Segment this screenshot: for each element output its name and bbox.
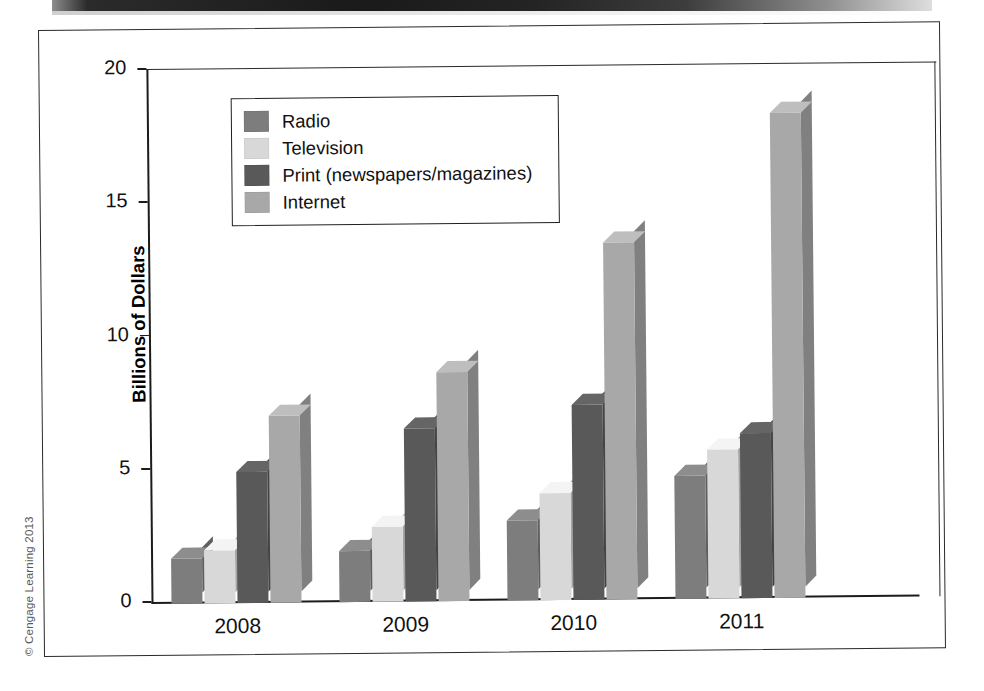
bar	[707, 449, 739, 599]
y-tick-label: 10	[69, 323, 129, 347]
bar-front-face	[603, 242, 637, 599]
bar-group: 2010	[502, 66, 639, 600]
chart-figure: Billions of Dollars 05101520 RadioTelevi…	[38, 21, 944, 655]
x-axis-category-label: 2008	[172, 613, 304, 638]
bar	[372, 527, 404, 602]
bar-side-face	[467, 350, 480, 590]
x-axis-category-label: 2011	[676, 609, 808, 634]
bar	[507, 520, 539, 600]
bar-group: 2008	[166, 70, 303, 604]
x-axis-category-label: 2009	[340, 612, 472, 637]
bar-front-face	[372, 527, 404, 602]
bar-front-face	[740, 433, 773, 599]
bar-front-face	[171, 558, 202, 604]
bar	[436, 372, 469, 601]
bar	[572, 405, 605, 600]
bar	[269, 416, 302, 603]
y-tick-mark	[140, 335, 149, 337]
x-axis-category-label: 2010	[508, 610, 640, 635]
y-tick-label: 15	[68, 189, 128, 213]
bar-front-face	[770, 113, 806, 598]
bar-front-face	[539, 493, 571, 600]
scan-edge-artifact-fade	[52, 11, 932, 15]
bar	[539, 493, 571, 600]
y-tick-mark	[137, 68, 146, 70]
y-tick-mark	[139, 201, 148, 203]
y-axis-title: Billions of Dollars	[127, 245, 151, 402]
bar-front-face	[339, 551, 370, 602]
y-tick-label: 0	[71, 589, 131, 613]
bar-side-face	[300, 394, 313, 592]
bar-front-face	[572, 405, 605, 600]
bar-front-face	[236, 472, 268, 603]
plot-area: Billions of Dollars 05101520 RadioTelevi…	[146, 61, 941, 604]
bar	[603, 242, 637, 599]
bar-front-face	[436, 372, 469, 601]
bar	[171, 558, 202, 604]
y-tick-mark	[142, 601, 151, 603]
bar-front-face	[204, 550, 236, 604]
bar	[204, 550, 236, 604]
bar-front-face	[674, 476, 706, 599]
bar	[236, 472, 268, 603]
bar-front-face	[404, 428, 437, 602]
bar	[404, 428, 437, 602]
bar-front-face	[707, 449, 739, 599]
copyright-notice: © Cengage Learning 2013	[23, 466, 35, 656]
bar-group: 2009	[334, 68, 471, 602]
bar	[674, 476, 706, 599]
y-tick-label: 5	[70, 456, 130, 480]
bar-group: 2011	[670, 65, 807, 599]
bar	[770, 113, 806, 598]
bar	[740, 433, 773, 599]
y-tick-label: 20	[66, 56, 126, 80]
y-tick-mark	[141, 468, 150, 470]
bar	[339, 551, 370, 602]
bar-front-face	[507, 520, 539, 600]
bar-front-face	[269, 416, 302, 603]
